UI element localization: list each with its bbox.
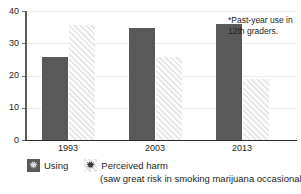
- bar-using-2013: [216, 24, 242, 140]
- y-tick-label-20: 20: [9, 71, 19, 80]
- y-axis: 40 30 20 10 0: [0, 0, 22, 150]
- plot-area: 40 30 20 10 0: [0, 0, 301, 150]
- bar-group-2003: [129, 11, 182, 140]
- x-tick-label-2003: 2003: [125, 143, 185, 153]
- chart-legend: Using Perceived harm (saw great risk in …: [0, 157, 301, 194]
- legend-entry-perceived-harm[interactable]: Perceived harm: [84, 159, 168, 172]
- bar-harm-1993: [69, 25, 95, 140]
- x-axis: 1993 2003 2013: [26, 143, 297, 157]
- y-tick-label-40: 40: [9, 7, 19, 16]
- marijuana-leaf-icon: [28, 160, 39, 171]
- legend-entry-using[interactable]: Using: [27, 159, 68, 172]
- bar-harm-2013: [243, 79, 269, 140]
- y-tick-label-30: 30: [9, 39, 19, 48]
- y-tick-label-10: 10: [9, 103, 19, 112]
- x-tick-label-1993: 1993: [38, 143, 98, 153]
- legend-entries: Using Perceived harm: [27, 159, 168, 172]
- y-tick-label-0: 0: [14, 136, 19, 145]
- bar-harm-2003: [156, 57, 182, 140]
- bar-using-1993: [42, 57, 68, 140]
- legend-sublabel: (saw great risk in smoking marijuana occ…: [100, 173, 301, 184]
- bar-using-2003: [129, 28, 155, 140]
- legend-swatch-using: [27, 159, 40, 172]
- bar-group-1993: [42, 11, 95, 140]
- legend-label-perceived-harm: Perceived harm: [101, 160, 168, 171]
- bar-chart: 40 30 20 10 0: [0, 0, 301, 194]
- marijuana-leaf-icon: [85, 160, 96, 171]
- x-tick-label-2013: 2013: [212, 143, 272, 153]
- legend-swatch-perceived-harm: [84, 159, 97, 172]
- legend-label-using: Using: [44, 160, 68, 171]
- chart-annotation: *Past-year use in 12th graders.: [228, 15, 300, 36]
